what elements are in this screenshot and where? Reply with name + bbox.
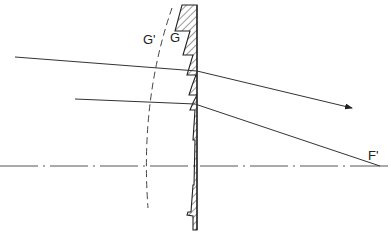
incident-ray-upper [15,57,197,71]
refracted-ray-lower [195,104,380,166]
label-g-prime: G' [143,33,156,46]
refracted-ray-upper [197,71,352,108]
incident-ray-lower [75,99,195,104]
fresnel-lens-diagram [0,0,391,233]
label-g: G [170,31,180,44]
label-f-prime: F' [368,149,378,162]
